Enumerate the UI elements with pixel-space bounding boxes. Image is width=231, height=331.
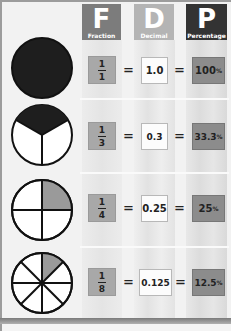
pie-quarters-icon	[10, 178, 74, 242]
percent-sign: %	[217, 279, 223, 286]
numerator: 1	[99, 197, 105, 207]
fraction-cell: 1 8	[88, 268, 116, 296]
row-divider	[80, 246, 229, 248]
fraction-bar	[98, 136, 106, 137]
numerator: 1	[99, 59, 105, 69]
denominator: 8	[99, 284, 105, 294]
percentage-cell: 100%	[192, 57, 225, 84]
fdp-chart-card: F Fraction D Decimal P Percentage 1 1 = …	[2, 2, 231, 318]
denominator: 4	[99, 210, 105, 220]
decimal-cell: 0.25	[141, 195, 168, 222]
pie-whole-icon	[10, 36, 74, 100]
decimal-header: D Decimal	[134, 4, 174, 40]
numerator: 1	[99, 271, 105, 281]
percent-sign: %	[217, 133, 223, 140]
fraction-cell: 1 4	[88, 194, 116, 222]
percentage-value: 25	[199, 203, 213, 214]
percentage-cell: 25%	[192, 195, 225, 222]
fraction-bar	[98, 70, 106, 71]
decimal-header-letter: D	[134, 6, 174, 32]
percentage-value: 33.3̇	[194, 132, 216, 142]
fraction-header-letter: F	[82, 6, 121, 32]
percentage-header: P Percentage	[186, 4, 227, 40]
row-one-whole: 1 1 = 1.0 = 100%	[2, 40, 231, 100]
equals-sign: =	[174, 62, 185, 77]
equals-sign: =	[123, 62, 134, 77]
percent-sign: %	[216, 67, 222, 74]
bottom-strip	[2, 324, 231, 331]
equals-sign: =	[123, 128, 134, 143]
denominator: 1	[99, 72, 105, 82]
equals-sign: =	[123, 200, 134, 215]
equals-sign: =	[175, 274, 186, 289]
pie-thirds-icon	[10, 103, 74, 167]
equals-sign: =	[123, 274, 134, 289]
fraction-header: F Fraction	[82, 4, 121, 40]
decimal-cell: 0.3̇	[141, 123, 168, 150]
percent-sign: %	[212, 205, 218, 212]
percentage-value: 12.5	[194, 278, 216, 288]
fraction-cell: 1 1	[88, 56, 116, 84]
denominator: 3	[99, 138, 105, 148]
numerator: 1	[99, 125, 105, 135]
row-divider	[80, 172, 229, 174]
decimal-header-label: Decimal	[134, 32, 174, 39]
row-one-quarter: 1 4 = 0.25 = 25%	[2, 180, 231, 240]
percentage-header-label: Percentage	[186, 32, 227, 39]
equals-sign: =	[174, 200, 185, 215]
row-one-eighth: 1 8 = 0.125 = 12.5%	[2, 252, 231, 312]
equals-sign: =	[174, 128, 185, 143]
percentage-cell: 33.3̇%	[192, 123, 225, 150]
decimal-cell: 0.125	[139, 269, 172, 296]
row-one-third: 1 3 = 0.3̇ = 33.3̇%	[2, 104, 231, 164]
percentage-header-letter: P	[186, 6, 227, 32]
fraction-bar	[98, 208, 106, 209]
fraction-header-label: Fraction	[82, 32, 121, 39]
percentage-cell: 12.5%	[192, 269, 225, 296]
fraction-bar	[98, 282, 106, 283]
percentage-value: 100	[195, 65, 216, 76]
fraction-cell: 1 3	[88, 122, 116, 150]
pie-eighths-icon	[10, 251, 74, 315]
decimal-cell: 1.0	[141, 57, 168, 84]
